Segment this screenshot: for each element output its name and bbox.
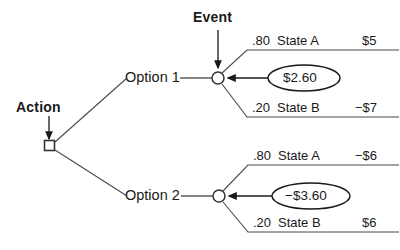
outcome-1b-probability: .20 (252, 101, 270, 114)
action-node-square (45, 141, 55, 151)
branch-to-option-2 (55, 150, 127, 196)
tree-graphics (0, 0, 400, 250)
outcome-2b-payoff: $6 (362, 216, 376, 229)
outcome-1b-state: State B (277, 101, 320, 114)
expected-value-2-text: −$3.60 (285, 189, 327, 203)
outcome-1b-payoff: −$7 (355, 101, 377, 114)
outcome-1a-payoff: $5 (362, 34, 376, 47)
decision-tree-diagram: Action Event Option 1 .80 State A $5 .20… (0, 0, 400, 250)
outcome-2b-probability: .20 (253, 216, 271, 229)
action-label: Action (16, 100, 61, 114)
outcome-2b-state: State B (278, 216, 321, 229)
outcome-1a-state: State A (277, 34, 319, 47)
event-label: Event (193, 10, 232, 24)
option-1-label[interactable]: Option 1 (125, 70, 180, 85)
outcome-1a-probability: .80 (252, 34, 270, 47)
chance-node-1-circle (212, 72, 224, 84)
branch-to-option-1 (55, 78, 127, 142)
option-2-label[interactable]: Option 2 (125, 188, 180, 203)
outcome-2a-state: State A (278, 149, 320, 162)
chance-node-2-circle (213, 190, 225, 202)
expected-value-1-text: $2.60 (283, 71, 317, 85)
outcome-2a-probability: .80 (253, 149, 271, 162)
outcome-2a-payoff: −$6 (355, 149, 377, 162)
